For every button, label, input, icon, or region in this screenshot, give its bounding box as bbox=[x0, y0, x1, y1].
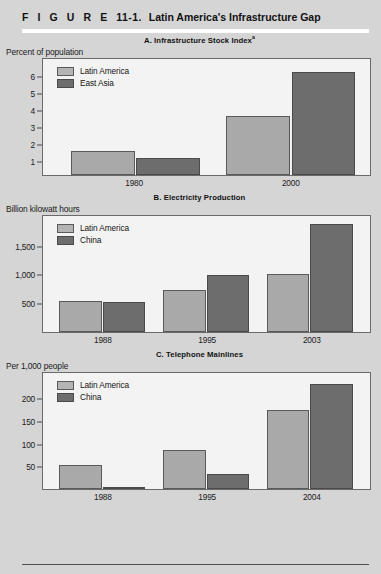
figure-container: F I G U R E11-1.Latin America's Infrastr… bbox=[0, 0, 381, 574]
panel-b-y-axis: 1,500 1,000 500 bbox=[6, 215, 42, 333]
bar-latin-america-1980 bbox=[71, 151, 135, 175]
panel-a-x-axis: 1980 2000 bbox=[42, 176, 371, 190]
legend-swatch-china bbox=[57, 393, 74, 402]
figure-title-line: F I G U R E11-1.Latin America's Infrastr… bbox=[22, 11, 381, 23]
panel-c-legend: Latin America China bbox=[57, 380, 129, 404]
panel-c-xtick-label: 1988 bbox=[94, 492, 112, 502]
legend-swatch-latin-america bbox=[57, 67, 74, 76]
figure-number: 11-1. bbox=[116, 11, 141, 23]
panel-c-ytick-label: 50 bbox=[26, 462, 35, 472]
panel-a-y-axis: 6 5 4 3 2 1 bbox=[6, 58, 42, 176]
footer-divider bbox=[22, 564, 369, 565]
panel-c-xtick-label: 1995 bbox=[198, 492, 216, 502]
panel-c-ytick-label: 200 bbox=[22, 394, 35, 404]
panel-a-title-footnote-marker: a bbox=[252, 34, 255, 40]
legend-label-china: China bbox=[80, 235, 101, 245]
bar-china-1995 bbox=[207, 275, 250, 332]
bar-latin-america-2004 bbox=[267, 410, 310, 489]
legend-item: China bbox=[57, 235, 129, 245]
legend-swatch-latin-america bbox=[57, 224, 74, 233]
legend-label-china: China bbox=[80, 392, 101, 402]
bar-latin-america-2003 bbox=[267, 274, 310, 332]
legend-swatch-east-asia bbox=[57, 79, 74, 88]
panel-c-ytick-label: 150 bbox=[22, 417, 35, 427]
legend-item: China bbox=[57, 392, 129, 402]
bar-latin-america-1995 bbox=[163, 290, 206, 332]
bar-china-2003 bbox=[310, 224, 353, 332]
bar-latin-america-2000 bbox=[226, 116, 290, 175]
legend-item: East Asia bbox=[57, 78, 129, 88]
panel-c-ytick-label: 100 bbox=[22, 440, 35, 450]
panel-c-plot: 200 150 100 50 Latin America China bbox=[6, 372, 371, 490]
bar-latin-america-1988 bbox=[59, 301, 102, 332]
legend-swatch-china bbox=[57, 236, 74, 245]
bar-latin-america-1988 bbox=[59, 465, 102, 489]
panel-b-plot: 1,500 1,000 500 Latin America China bbox=[6, 215, 371, 333]
panel-a-ytick-label: 2 bbox=[31, 140, 35, 150]
panel-a-legend: Latin America East Asia bbox=[57, 66, 129, 90]
bar-latin-america-1995 bbox=[163, 450, 206, 489]
panel-b-ytick-label: 500 bbox=[22, 299, 35, 309]
panel-b-xtick-label: 1995 bbox=[198, 335, 216, 345]
bar-east-asia-2000 bbox=[292, 72, 356, 175]
panel-c-x-axis: 1988 1995 2004 bbox=[42, 490, 371, 504]
panel-b-ytick-label: 1,500 bbox=[15, 242, 35, 252]
figure-keyword: F I G U R E bbox=[22, 11, 110, 23]
panel-b-xtick-label: 1988 bbox=[94, 335, 112, 345]
legend-label-latin-america: Latin America bbox=[80, 223, 129, 233]
panel-a-plot: 6 5 4 3 2 1 Latin America bbox=[6, 58, 371, 176]
page-title: Latin America's Infrastructure Gap bbox=[149, 11, 321, 23]
bar-east-asia-1980 bbox=[136, 158, 200, 175]
panel-c-title-text: C. Telephone Mainlines bbox=[156, 350, 243, 359]
bar-china-1995 bbox=[207, 474, 250, 489]
bar-china-1988 bbox=[103, 487, 146, 489]
panel-b-unit-label: Billion kilowatt hours bbox=[6, 204, 381, 214]
panel-a-xtick-label: 1980 bbox=[125, 178, 143, 188]
legend-label-east-asia: East Asia bbox=[80, 78, 114, 88]
legend-item: Latin America bbox=[57, 66, 129, 76]
panel-b-legend: Latin America China bbox=[57, 223, 129, 247]
panel-a-ytick-label: 4 bbox=[31, 106, 35, 116]
panel-a-frame: Latin America East Asia bbox=[42, 58, 371, 176]
legend-swatch-latin-america bbox=[57, 381, 74, 390]
figure-header: F I G U R E11-1.Latin America's Infrastr… bbox=[0, 0, 381, 23]
panel-c: C. Telephone Mainlines Per 1,000 people … bbox=[0, 350, 381, 504]
legend-label-latin-america: Latin America bbox=[80, 380, 129, 390]
legend-item: Latin America bbox=[57, 380, 129, 390]
panel-b-title: B. Electricity Production bbox=[0, 193, 381, 202]
bar-china-2004 bbox=[310, 384, 353, 489]
panel-c-xtick-label: 2004 bbox=[303, 492, 321, 502]
panel-c-y-axis: 200 150 100 50 bbox=[6, 372, 42, 490]
panel-a: A. Infrastructure Stock Indexa Percent o… bbox=[0, 36, 381, 190]
panel-b-ytick-label: 1,000 bbox=[15, 270, 35, 280]
panel-b-frame: Latin America China bbox=[42, 215, 371, 333]
panel-a-ytick-label: 3 bbox=[31, 123, 35, 133]
panel-b-x-axis: 1988 1995 2003 bbox=[42, 333, 371, 347]
legend-item: Latin America bbox=[57, 223, 129, 233]
panel-a-unit-label: Percent of population bbox=[6, 47, 381, 57]
panel-c-frame: Latin America China bbox=[42, 372, 371, 490]
legend-label-latin-america: Latin America bbox=[80, 66, 129, 76]
panel-b-title-text: B. Electricity Production bbox=[154, 193, 246, 202]
panel-b-xtick-label: 2003 bbox=[303, 335, 321, 345]
panel-c-title: C. Telephone Mainlines bbox=[0, 350, 381, 359]
panel-c-unit-label: Per 1,000 people bbox=[6, 361, 381, 371]
panel-a-xtick-label: 2000 bbox=[282, 178, 300, 188]
panel-a-ytick-label: 5 bbox=[31, 89, 35, 99]
panel-a-ytick-label: 6 bbox=[31, 72, 35, 82]
panel-a-ytick-label: 1 bbox=[31, 157, 35, 167]
panel-b: B. Electricity Production Billion kilowa… bbox=[0, 193, 381, 347]
header-divider bbox=[22, 29, 369, 33]
panel-a-title: A. Infrastructure Stock Indexa bbox=[0, 36, 381, 45]
bar-china-1988 bbox=[103, 302, 146, 332]
panel-a-title-text: A. Infrastructure Stock Index bbox=[144, 36, 252, 45]
